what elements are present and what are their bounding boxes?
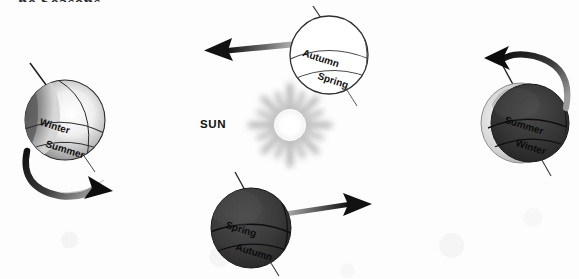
sun-label: SUN: [200, 118, 226, 130]
orbit-arrow-bottom: [282, 193, 372, 217]
orbit-arrow-top: [204, 38, 297, 61]
sun-core: [275, 110, 306, 141]
diagram-vector-layer: [0, 0, 579, 279]
globe-bottom-group: [208, 172, 300, 276]
globe-right-group: [481, 46, 578, 176]
seasons-diagram-canvas: he Seasons: [0, 0, 579, 279]
